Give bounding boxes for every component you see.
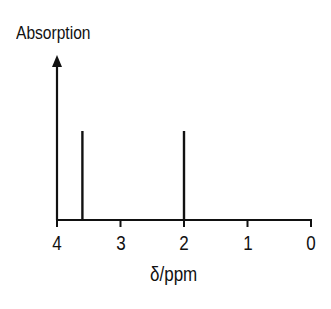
x-tick-label: 2 [176, 232, 193, 255]
x-axis-label: δ/ppm [150, 263, 197, 286]
x-tick-label: 4 [49, 232, 66, 255]
peaks [82, 131, 184, 220]
x-tick-label: 1 [239, 232, 256, 255]
x-tick-label: 0 [303, 232, 320, 255]
nmr-spectrum-chart: Absorption 43210 δ/ppm [0, 0, 331, 309]
y-axis-arrow-icon [52, 55, 62, 67]
x-tick-label: 3 [112, 232, 129, 255]
y-axis-label: Absorption [16, 22, 90, 44]
